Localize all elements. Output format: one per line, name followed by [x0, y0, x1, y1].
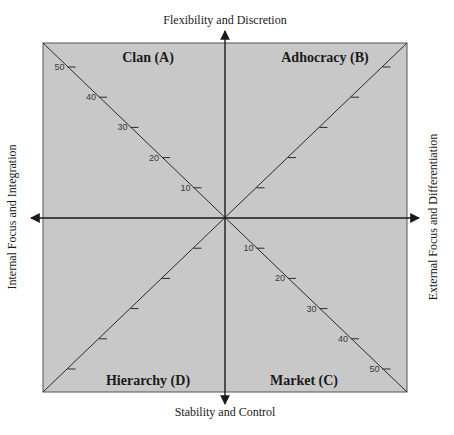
competing-values-diagram: 10203040501020304050 Flexibility and Dis…: [0, 0, 454, 435]
axis-label-right: External Focus and Differentiation: [426, 134, 440, 301]
axis-label-top: Flexibility and Discretion: [163, 13, 286, 27]
quadrant-label-market: Market (C): [270, 373, 338, 389]
quadrant-label-adhocracy: Adhocracy (B): [281, 50, 369, 66]
tick-label-a-20: 20: [149, 153, 159, 163]
axis-label-left: Internal Focus and Integration: [5, 145, 19, 290]
tick-label-c-30: 30: [306, 304, 316, 314]
tick-label-c-10: 10: [243, 243, 253, 253]
quadrant-label-hierarchy: Hierarchy (D): [106, 373, 190, 389]
tick-label-a-40: 40: [86, 92, 96, 102]
tick-label-a-10: 10: [180, 183, 190, 193]
tick-label-c-20: 20: [275, 273, 285, 283]
tick-label-a-30: 30: [117, 122, 127, 132]
axis-label-bottom: Stability and Control: [175, 405, 276, 419]
quadrant-label-clan: Clan (A): [122, 50, 174, 66]
tick-label-c-40: 40: [338, 334, 348, 344]
tick-label-c-50: 50: [369, 364, 379, 374]
tick-label-a-50: 50: [54, 62, 64, 72]
